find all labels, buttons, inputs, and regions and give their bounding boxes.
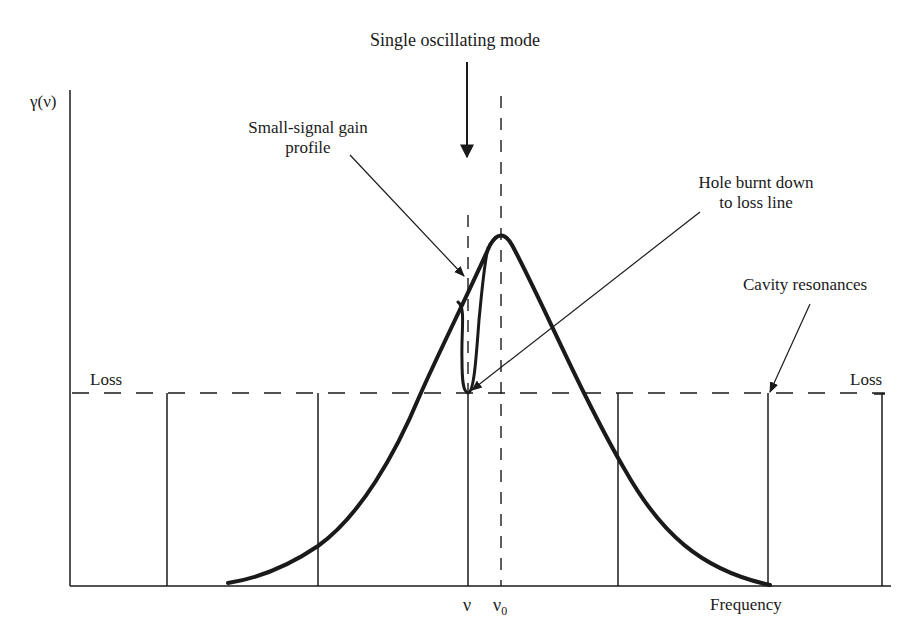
- hole-label: Hole burnt down to loss line: [686, 173, 826, 213]
- loss-label-right: Loss: [850, 370, 882, 390]
- y-axis-label: γ(ν): [30, 92, 57, 112]
- x-axis-label: Frequency: [710, 595, 782, 615]
- nu0-subscript: 0: [501, 604, 507, 618]
- hole-label-line1: Hole burnt down: [686, 173, 826, 193]
- gain-profile-arrow: [350, 155, 464, 276]
- nu-tick-label: ν: [463, 595, 471, 615]
- loss-label-left: Loss: [90, 370, 122, 390]
- gain-profile-label: Small-signal gain profile: [218, 118, 398, 158]
- cavity-resonances: [167, 393, 885, 586]
- diagram-title: Single oscillating mode: [370, 30, 540, 50]
- nu0-base: ν: [493, 595, 501, 615]
- spectral-hole-curve: [458, 248, 488, 393]
- gain-profile-curve: [228, 236, 770, 586]
- gain-profile-label-line1: Small-signal gain: [218, 118, 398, 138]
- hole-label-line2: to loss line: [686, 193, 826, 213]
- cavity-arrow: [770, 304, 810, 392]
- gain-profile-label-line2: profile: [218, 138, 398, 158]
- cavity-resonances-label: Cavity resonances: [743, 275, 867, 295]
- nu0-tick-label: ν0: [493, 595, 507, 621]
- diagram-canvas: [0, 0, 923, 640]
- gain-diagram: Single oscillating mode γ(ν) Small-signa…: [0, 0, 923, 640]
